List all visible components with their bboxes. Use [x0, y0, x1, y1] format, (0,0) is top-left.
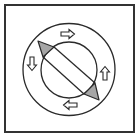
arrow-up-icon: [101, 67, 110, 81]
indicator-line-lower: [43, 57, 84, 94]
arrow-left-icon: [64, 101, 78, 110]
arrow-right-icon: [61, 30, 75, 39]
indicator-tip-top-left: [38, 41, 54, 57]
rotary-dial-diagram: [0, 0, 137, 136]
indicator-line-upper: [54, 47, 95, 83]
arrow-down-icon: [28, 57, 37, 71]
